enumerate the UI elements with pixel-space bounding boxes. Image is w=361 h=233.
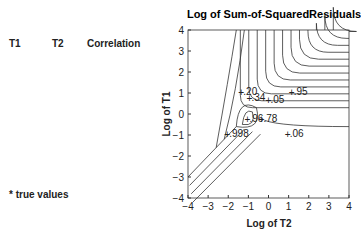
contour-label: .998 bbox=[229, 128, 249, 139]
svg-text:1: 1 bbox=[286, 201, 292, 212]
svg-text:4: 4 bbox=[346, 201, 352, 212]
svg-text:3: 3 bbox=[326, 201, 332, 212]
contour-chart: Log of Sum-of-SquaredResiduals −4−3−2−10… bbox=[0, 0, 361, 233]
svg-text:2: 2 bbox=[178, 67, 184, 78]
contour-label: .06 bbox=[290, 128, 304, 139]
contour-labels: +.20+.34+.05+.95+.96+.78+.998+.06 bbox=[224, 86, 308, 140]
svg-text:−2: −2 bbox=[223, 201, 235, 212]
svg-text:−3: −3 bbox=[202, 201, 214, 212]
svg-text:4: 4 bbox=[178, 25, 184, 36]
svg-text:2: 2 bbox=[306, 201, 312, 212]
svg-text:−1: −1 bbox=[243, 201, 255, 212]
svg-text:−2: −2 bbox=[173, 151, 185, 162]
svg-text:−4: −4 bbox=[173, 193, 185, 204]
svg-text:−4: −4 bbox=[182, 201, 194, 212]
y-axis-label: Log of T1 bbox=[161, 91, 172, 136]
svg-text:−3: −3 bbox=[173, 172, 185, 183]
svg-text:−1: −1 bbox=[173, 130, 185, 141]
x-axis-label: Log of T2 bbox=[247, 218, 292, 229]
svg-text:0: 0 bbox=[178, 109, 184, 120]
contour-label: .05 bbox=[271, 94, 285, 105]
svg-text:1: 1 bbox=[178, 88, 184, 99]
svg-text:0: 0 bbox=[266, 201, 272, 212]
svg-text:3: 3 bbox=[178, 46, 184, 57]
contour-label: .34 bbox=[251, 92, 265, 103]
contour-label: .95 bbox=[294, 86, 308, 97]
contour-label: .78 bbox=[263, 113, 277, 124]
